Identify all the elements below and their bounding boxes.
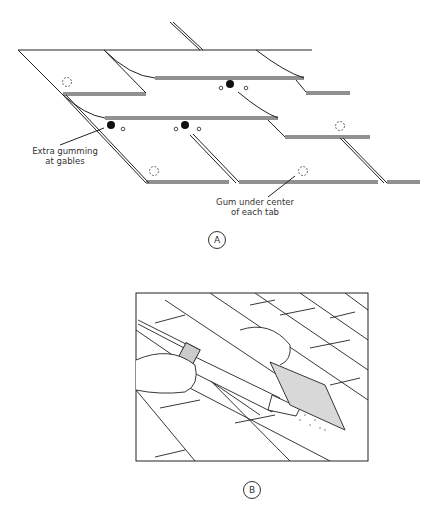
caulking-illustration-b [0, 0, 433, 508]
panel-label-b: B [243, 481, 261, 499]
